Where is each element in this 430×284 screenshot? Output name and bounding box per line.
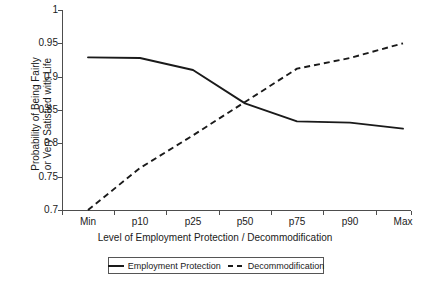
x-tick-label-p90: p90	[322, 216, 378, 227]
x-tick-label-min: Min	[60, 216, 116, 227]
y-tick-label-0.75: 0.75	[24, 171, 58, 182]
series-line-decommodification	[88, 43, 403, 210]
y-axis-tick-mark	[58, 110, 62, 111]
x-axis-tick-mark	[376, 211, 377, 215]
legend-item-employment-protection: Employment Protection	[108, 261, 221, 271]
y-tick-label-0.95: 0.95	[24, 37, 58, 48]
legend-swatch-dashed-icon	[228, 262, 244, 270]
series-line-employment-protection	[88, 57, 403, 128]
y-axis-tick-mark	[58, 43, 62, 44]
x-axis-title: Level of Employment Protection / Decommo…	[0, 232, 430, 243]
y-tick-label-0.8: 0.8	[24, 137, 58, 148]
x-axis-tick-mark	[323, 211, 324, 215]
y-axis-line	[62, 10, 63, 210]
y-tick-label-0.85: 0.85	[24, 104, 58, 115]
chart-figure: Probability of Being Fairly or Very Sati…	[0, 0, 430, 284]
x-tick-label-max: Max	[375, 216, 430, 227]
x-tick-label-p10: p10	[112, 216, 168, 227]
x-axis-tick-mark	[271, 211, 272, 215]
y-tick-label-1: 1	[24, 4, 58, 15]
x-tick-label-p50: p50	[217, 216, 273, 227]
x-axis-tick-mark	[62, 211, 63, 215]
x-axis-tick-mark	[219, 211, 220, 215]
legend-swatch-solid-icon	[108, 262, 124, 270]
legend-label-decommodification: Decommodification	[248, 261, 325, 271]
y-axis-tick-mark	[58, 143, 62, 144]
legend-item-decommodification: Decommodification	[228, 261, 325, 271]
y-axis-tick-mark	[58, 77, 62, 78]
legend-label-employment-protection: Employment Protection	[128, 261, 221, 271]
x-axis-tick-mark	[166, 211, 167, 215]
x-tick-label-p25: p25	[165, 216, 221, 227]
chart-legend: Employment Protection Decommodification	[108, 257, 324, 274]
x-axis-tick-mark	[114, 211, 115, 215]
y-axis-tick-mark	[58, 10, 62, 11]
y-axis-tick-mark	[58, 177, 62, 178]
y-tick-label-0.7: 0.7	[24, 204, 58, 215]
x-axis-tick-mark	[411, 211, 412, 215]
x-tick-label-p75: p75	[269, 216, 325, 227]
y-tick-label-0.9: 0.9	[24, 71, 58, 82]
